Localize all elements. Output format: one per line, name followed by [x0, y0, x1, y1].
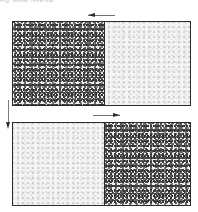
dense-stipple-texture — [104, 123, 190, 205]
light-stipple-texture — [104, 22, 190, 105]
time-progression-arrow-icon — [5, 100, 12, 129]
clipped-caption: Fig. shear reversal — [0, 0, 70, 4]
arrow-head — [88, 13, 95, 17]
lower-panel-right-region — [104, 123, 190, 205]
shear-arrow-right-icon — [93, 112, 120, 119]
arrow-head — [113, 113, 120, 117]
upper-panel-right-region — [104, 22, 190, 105]
arrow-head — [6, 122, 10, 129]
upper-panel-interface-line — [104, 22, 105, 105]
dense-stipple-texture — [13, 22, 104, 105]
figure-root: Fig. shear reversal — [0, 0, 198, 212]
shear-arrow-left-icon — [88, 12, 115, 19]
lower-panel-left-region — [13, 123, 104, 205]
lower-panel — [12, 122, 191, 206]
upper-panel — [12, 21, 191, 106]
light-stipple-texture — [13, 123, 104, 205]
arrow-shaft — [8, 100, 9, 123]
lower-panel-interface-line — [104, 123, 105, 205]
upper-panel-left-region — [13, 22, 104, 105]
